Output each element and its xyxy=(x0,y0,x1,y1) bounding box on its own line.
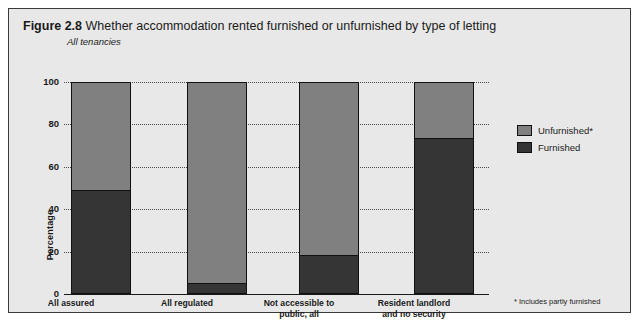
y-tick-80: 80 xyxy=(35,119,59,129)
x-label-all-regulated: All regulated xyxy=(131,298,243,309)
y-axis-title: Percentage xyxy=(45,204,55,266)
segment-furnished[interactable] xyxy=(72,190,130,293)
legend-swatch-unfurnished-icon xyxy=(517,125,532,136)
x-label-all-assured: All assured xyxy=(15,298,127,309)
legend-label-furnished: Furnished xyxy=(538,142,580,153)
plot-area xyxy=(64,82,489,294)
x-label-line: public, all xyxy=(243,309,355,320)
figure-subtitle: All tenancies xyxy=(67,36,603,48)
segment-furnished[interactable] xyxy=(188,283,246,294)
segment-unfurnished[interactable] xyxy=(72,83,130,190)
x-label-line: Resident landlord xyxy=(358,298,470,309)
legend-swatch-furnished-icon xyxy=(517,142,532,153)
bar-resident-landlord[interactable] xyxy=(414,82,474,294)
y-tick-100: 100 xyxy=(35,77,59,87)
legend-item-unfurnished[interactable]: Unfurnished* xyxy=(517,125,593,136)
figure-title-line: Figure 2.8 Whether accommodation rented … xyxy=(23,19,603,34)
legend-label-unfurnished: Unfurnished* xyxy=(538,125,593,136)
x-label-line: All regulated xyxy=(131,298,243,309)
legend-item-furnished[interactable]: Furnished xyxy=(517,142,593,153)
segment-unfurnished[interactable] xyxy=(415,83,473,138)
segment-furnished[interactable] xyxy=(415,138,473,293)
segment-furnished[interactable] xyxy=(300,255,358,293)
x-label-line: All assured xyxy=(15,298,127,309)
bar-all-regulated[interactable] xyxy=(187,82,247,294)
figure-header: Figure 2.8 Whether accommodation rented … xyxy=(23,19,603,48)
x-label-resident-landlord: Resident landlord and no security xyxy=(358,298,470,319)
segment-unfurnished[interactable] xyxy=(300,83,358,255)
figure-panel: Figure 2.8 Whether accommodation rented … xyxy=(8,8,631,313)
page-title: Whether accommodation rented furnished o… xyxy=(86,19,497,33)
y-tick-60: 60 xyxy=(35,162,59,172)
footnote: * Includes partly furnished xyxy=(514,297,600,306)
bar-all-assured[interactable] xyxy=(71,82,131,294)
legend: Unfurnished* Furnished xyxy=(517,125,593,159)
x-label-line: and no security xyxy=(358,309,470,320)
bar-not-accessible-to-public[interactable] xyxy=(299,82,359,294)
y-axis: 100 80 60 40 20 0 Percentage xyxy=(31,82,59,294)
x-axis-line xyxy=(64,294,489,295)
segment-unfurnished[interactable] xyxy=(188,83,246,283)
figure-number: Figure 2.8 xyxy=(23,19,82,33)
x-label-line: Not accessible to xyxy=(243,298,355,309)
x-label-not-accessible-to-public: Not accessible to public, all xyxy=(243,298,355,319)
